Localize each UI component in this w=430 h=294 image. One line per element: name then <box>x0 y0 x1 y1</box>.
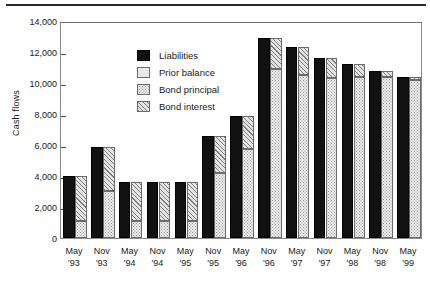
y-tick-label: 8,000 <box>5 110 57 120</box>
y-tick-label: 2,000 <box>5 203 57 213</box>
bar-segment-bond-principal <box>103 191 115 238</box>
bar-segment-bond-interest <box>159 182 171 221</box>
bar-bond-stack <box>187 182 199 238</box>
bar-bond-stack <box>381 71 393 238</box>
bar-segment-bond-interest <box>270 38 282 69</box>
x-tick-year: '99 <box>392 257 424 269</box>
legend-swatch-prior-balance-icon <box>137 67 150 78</box>
legend-label-bond-interest: Bond interest <box>159 101 215 112</box>
bar-segment-bond-principal <box>75 221 87 238</box>
bar-liabilities <box>91 147 103 238</box>
legend-swatch-bond-principal-icon <box>137 84 150 95</box>
bar-segment-bond-principal <box>214 173 226 238</box>
y-tick-label: 6,000 <box>5 141 57 151</box>
bar-segment-bond-interest <box>409 77 421 80</box>
legend-swatch-liabilities-icon <box>137 50 150 61</box>
bar-segment-bond-interest <box>131 182 143 221</box>
bar-bond-stack <box>214 136 226 238</box>
y-tick-label: 14,000 <box>5 17 57 27</box>
bar-segment-bond-principal <box>381 77 393 238</box>
bar-liabilities <box>286 47 298 238</box>
bar-segment-bond-principal <box>159 221 171 238</box>
y-tick-mark <box>61 85 66 86</box>
chart-legend: Liabilities Prior balance Bond principal… <box>137 47 219 115</box>
bar-bond-stack <box>75 176 87 238</box>
bar-liabilities <box>314 58 326 238</box>
bar-segment-bond-principal <box>409 80 421 238</box>
bar-liabilities <box>63 176 75 238</box>
bar-liabilities <box>369 71 381 238</box>
y-tick-label: 0 <box>5 234 57 244</box>
bar-segment-bond-interest <box>326 58 338 78</box>
bar-liabilities <box>342 64 354 238</box>
bar-segment-bond-interest <box>75 176 87 221</box>
bar-liabilities <box>258 38 270 238</box>
bar-segment-bond-interest <box>242 116 254 149</box>
bar-segment-bond-interest <box>381 71 393 77</box>
legend-label-bond-principal: Bond principal <box>159 84 219 95</box>
legend-label-liabilities: Liabilities <box>159 50 198 61</box>
bar-segment-bond-principal <box>270 69 282 238</box>
x-tick-month: May <box>392 245 424 257</box>
bar-segment-bond-interest <box>214 136 226 173</box>
bar-bond-stack <box>242 116 254 238</box>
y-tick-label: 12,000 <box>5 48 57 58</box>
x-tick-label: May'99 <box>392 245 424 269</box>
bar-segment-bond-principal <box>242 149 254 238</box>
y-axis-tick-labels: 02,0004,0006,0008,00010,00012,00014,000 <box>0 0 57 294</box>
bar-liabilities <box>202 136 214 238</box>
bar-bond-stack <box>131 182 143 238</box>
bar-bond-stack <box>326 58 338 238</box>
bar-bond-stack <box>298 47 310 238</box>
bar-liabilities <box>175 182 187 238</box>
plot-area: Liabilities Prior balance Bond principal… <box>60 22 422 239</box>
bar-liabilities <box>147 182 159 238</box>
y-tick-mark <box>61 147 66 148</box>
bar-segment-bond-principal <box>131 221 143 238</box>
bar-liabilities <box>230 116 242 238</box>
y-tick-label: 4,000 <box>5 172 57 182</box>
bar-bond-stack <box>354 64 366 238</box>
y-tick-label: 10,000 <box>5 79 57 89</box>
legend-item-bond-interest: Bond interest <box>137 98 219 115</box>
y-tick-mark <box>61 54 66 55</box>
bar-bond-stack <box>103 147 115 238</box>
bar-segment-bond-interest <box>187 182 199 221</box>
bar-segment-bond-principal <box>298 75 310 238</box>
legend-item-prior-balance: Prior balance <box>137 64 219 81</box>
top-divider-rule <box>6 4 426 6</box>
legend-item-liabilities: Liabilities <box>137 47 219 64</box>
legend-swatch-bond-interest-icon <box>137 101 150 112</box>
bar-segment-bond-principal <box>187 221 199 238</box>
bar-segment-bond-interest <box>354 64 366 76</box>
legend-label-prior-balance: Prior balance <box>159 67 215 78</box>
bar-segment-bond-principal <box>354 77 366 238</box>
bar-bond-stack <box>270 38 282 238</box>
bar-liabilities <box>119 182 131 238</box>
bar-bond-stack <box>159 182 171 238</box>
chart-figure: Cash flows 02,0004,0006,0008,00010,00012… <box>0 0 430 294</box>
bar-liabilities <box>397 77 409 238</box>
bar-segment-bond-principal <box>326 78 338 238</box>
bar-segment-bond-interest <box>298 47 310 75</box>
bar-segment-bond-interest <box>103 147 115 191</box>
y-tick-mark <box>61 116 66 117</box>
legend-item-bond-principal: Bond principal <box>137 81 219 98</box>
plot-inner <box>61 23 421 238</box>
bar-bond-stack <box>409 77 421 238</box>
